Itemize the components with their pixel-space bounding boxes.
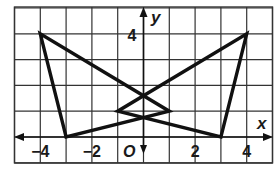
- x-axis-label: x: [256, 114, 268, 133]
- x-tick-label: −2: [83, 143, 101, 160]
- origin-label: O: [123, 143, 136, 160]
- y-axis-arrow-down: [140, 145, 147, 154]
- y-axis-label: y: [150, 8, 162, 27]
- coordinate-plane: x y O −4−2244: [0, 0, 279, 175]
- x-tick-label: 2: [191, 143, 200, 160]
- x-tick-label: −4: [31, 143, 49, 160]
- x-tick-label: 4: [242, 143, 251, 160]
- y-tick-label: 4: [128, 27, 137, 44]
- x-axis-arrow-left: [14, 133, 24, 141]
- x-axis-arrow-right: [263, 133, 273, 141]
